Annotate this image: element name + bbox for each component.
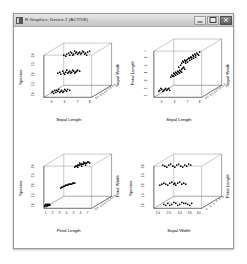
svg-text:1.5: 1.5 (140, 192, 144, 196)
svg-text:4: 4 (66, 211, 68, 215)
svg-text:1: 1 (204, 206, 208, 210)
svg-text:7: 7 (143, 50, 147, 52)
svg-text:3: 3 (211, 201, 215, 205)
svg-text:3.0: 3.0 (177, 211, 181, 215)
x-ticks-top-left: 56 78 (51, 100, 91, 104)
svg-text:8: 8 (89, 100, 91, 104)
z-ticks-top-left: 1.0 1.5 2.0 2.5 3.0 (31, 53, 35, 97)
svg-text:1.5: 1.5 (31, 82, 35, 86)
window-controls (194, 16, 232, 25)
svg-text:5: 5 (160, 100, 162, 104)
svg-text:1.0: 1.0 (140, 202, 144, 206)
screen: R Graphics: Device 2 (ACTIVE) (0, 0, 247, 264)
svg-text:3.0: 3.0 (31, 163, 35, 167)
svg-text:5: 5 (143, 64, 147, 66)
zlabel-bottom-right: Species (127, 180, 132, 195)
svg-text:3: 3 (59, 211, 61, 215)
xlabel-bottom-right: Sepal Width (167, 228, 191, 233)
svg-text:1: 1 (143, 94, 147, 96)
r-app-icon (16, 17, 23, 24)
svg-text:1.0: 1.0 (31, 202, 35, 206)
svg-text:6: 6 (173, 100, 175, 104)
plot-box-top-right (153, 39, 221, 97)
svg-text:2.0: 2.0 (140, 182, 144, 186)
zlabel-top-left: Species (18, 70, 23, 85)
svg-text:8: 8 (198, 100, 200, 104)
svg-text:3.5: 3.5 (187, 211, 191, 215)
x-ticks-top-right: 56 78 (160, 100, 200, 104)
ylabel-top-right: Sepal Width (224, 63, 229, 87)
svg-text:2.5: 2.5 (166, 211, 170, 215)
window-titlebar[interactable]: R Graphics: Device 2 (ACTIVE) (14, 14, 233, 27)
plot-top-right: 56 78 1 2 3 4 5 6 7 2. (124, 27, 234, 138)
svg-text:4: 4 (143, 71, 147, 73)
minimize-button[interactable] (194, 16, 206, 25)
svg-text:2.5: 2.5 (140, 172, 144, 176)
xlabel-bottom-left: Petal Length (57, 228, 82, 233)
plot-grid: 56 78 1.0 1.5 2.0 2.5 3.0 2.0 2.5 (14, 27, 233, 248)
plot-bottom-right: 2.02.53.0 3.54.0 1.0 1.5 2.0 2.5 3.0 1 (124, 138, 234, 249)
svg-text:6: 6 (64, 100, 66, 104)
svg-text:7: 7 (87, 211, 89, 215)
svg-text:4.0: 4.0 (196, 211, 200, 215)
svg-text:2.0: 2.0 (31, 182, 35, 186)
z-ticks-bottom-right: 1.0 1.5 2.0 2.5 3.0 (140, 163, 144, 207)
xlabel-top-left: Sepal Length (56, 117, 82, 122)
svg-text:3.0: 3.0 (140, 163, 144, 167)
svg-text:5: 5 (51, 100, 53, 104)
ylabel-top-left: Sepal Width (115, 63, 120, 87)
graphics-canvas: 56 78 1.0 1.5 2.0 2.5 3.0 2.0 2.5 (14, 27, 233, 248)
plot-top-left: 56 78 1.0 1.5 2.0 2.5 3.0 2.0 2.5 (14, 27, 124, 138)
svg-text:3.0: 3.0 (31, 53, 35, 57)
window-title: R Graphics: Device 2 (ACTIVE) (25, 17, 194, 23)
zlabel-bottom-left: Species (18, 180, 23, 195)
plot-bottom-left: 123 456 7 1.0 1.5 2.0 2.5 3.0 0.5 (14, 138, 124, 249)
ylabel-bottom-left: Petal Width (115, 174, 120, 197)
svg-text:2: 2 (52, 211, 54, 215)
svg-text:1: 1 (45, 211, 47, 215)
svg-text:6: 6 (80, 211, 82, 215)
plot-box-bottom-left (44, 154, 112, 208)
svg-text:2.5: 2.5 (31, 172, 35, 176)
close-button[interactable] (220, 16, 232, 25)
z-ticks-bottom-left: 1.0 1.5 2.0 2.5 3.0 (31, 163, 35, 207)
svg-text:1.0: 1.0 (31, 92, 35, 96)
svg-text:3: 3 (143, 79, 147, 81)
maximize-button[interactable] (207, 16, 219, 25)
svg-text:7: 7 (186, 100, 188, 104)
x-ticks-bottom-right: 2.02.53.0 3.54.0 (155, 211, 200, 215)
z-ticks-top-right: 1 2 3 4 5 6 7 (143, 50, 147, 96)
svg-text:1.5: 1.5 (31, 192, 35, 196)
svg-text:2: 2 (143, 87, 147, 89)
svg-text:2.5: 2.5 (31, 62, 35, 66)
svg-text:5: 5 (73, 211, 75, 215)
zlabel-top-right: Petal Length (129, 60, 134, 85)
svg-text:2.0: 2.0 (31, 72, 35, 76)
r-graphics-window: R Graphics: Device 2 (ACTIVE) (13, 13, 234, 249)
svg-text:2.0: 2.0 (155, 211, 159, 215)
x-ticks-bottom-left: 123 456 7 (45, 211, 89, 215)
svg-text:7: 7 (77, 100, 79, 104)
ylabel-bottom-right: Petal Length (224, 173, 229, 198)
svg-text:6: 6 (143, 56, 147, 58)
xlabel-top-right: Sepal Length (166, 117, 192, 122)
plot-box-bottom-right (153, 154, 221, 208)
